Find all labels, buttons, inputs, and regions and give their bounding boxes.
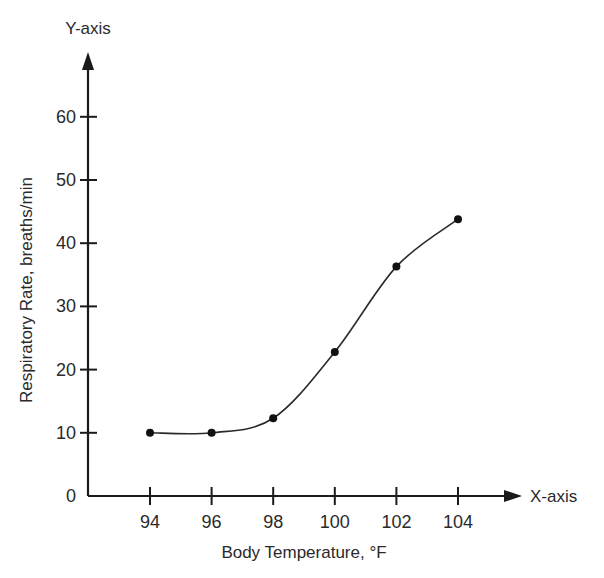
- y-axis-name: Y-axis: [65, 19, 111, 38]
- chart: 0102030405060 949698100102104 Y-axis X-a…: [0, 0, 604, 578]
- data-point: [392, 263, 400, 271]
- data-point: [146, 429, 154, 437]
- y-tick-label: 30: [56, 296, 76, 316]
- data-point: [208, 429, 216, 437]
- x-axis-label: Body Temperature, °F: [221, 543, 386, 562]
- x-tick-label: 94: [140, 512, 160, 532]
- data-point: [269, 414, 277, 422]
- x-tick-label: 104: [443, 512, 473, 532]
- y-tick-label: 60: [56, 107, 76, 127]
- y-tick-label: 40: [56, 233, 76, 253]
- y-tick-label: 20: [56, 360, 76, 380]
- y-tick-label: 10: [56, 423, 76, 443]
- x-tick-label: 100: [320, 512, 350, 532]
- data-points: [146, 215, 462, 437]
- x-axis-arrow-icon: [504, 490, 522, 502]
- y-tick-label: 0: [66, 486, 76, 506]
- x-tick-label: 96: [202, 512, 222, 532]
- x-tick-label: 98: [263, 512, 283, 532]
- y-tick-label: 50: [56, 170, 76, 190]
- x-axis-name: X-axis: [530, 487, 577, 506]
- y-axis-arrow-icon: [82, 52, 94, 70]
- x-ticks: 949698100102104: [140, 487, 473, 532]
- y-axis-label: Respiratory Rate, breaths/min: [17, 177, 36, 403]
- x-tick-label: 102: [381, 512, 411, 532]
- data-point: [331, 348, 339, 356]
- y-ticks: 0102030405060: [56, 107, 97, 506]
- data-curve: [150, 219, 458, 434]
- data-point: [454, 215, 462, 223]
